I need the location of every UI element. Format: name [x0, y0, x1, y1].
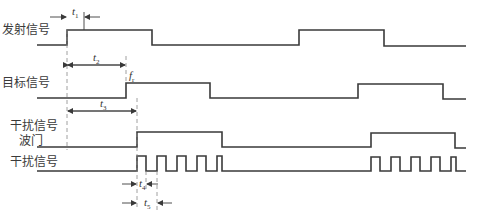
- timing-diagram: t1 t2 fr t3 t4 t5: [0, 0, 477, 218]
- fr-label: fr: [129, 69, 135, 84]
- gate-waveform: [37, 132, 466, 148]
- jamming-waveform: [37, 156, 466, 171]
- transmit-waveform: [37, 30, 466, 46]
- t5-label: t5: [144, 196, 151, 211]
- t2-label: t2: [93, 51, 100, 66]
- t1-label: t1: [72, 5, 79, 20]
- t3-label: t3: [100, 97, 107, 112]
- t4-label: t4: [139, 177, 146, 192]
